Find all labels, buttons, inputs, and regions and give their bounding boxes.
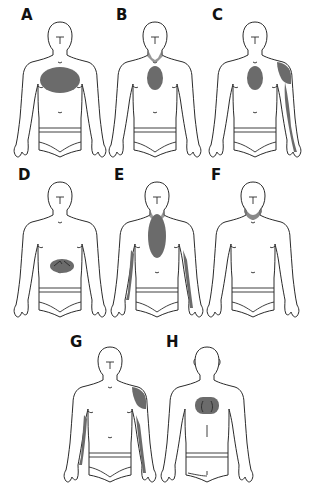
- figure-panel-d: D: [10, 160, 110, 320]
- panel-label: B: [116, 6, 127, 24]
- body-figure-front: [203, 160, 303, 325]
- pain-region-epigastric: [50, 259, 74, 273]
- figure-panel-g: G: [60, 325, 160, 485]
- pain-region-mid-chest: [247, 66, 263, 90]
- pain-region-sternum: [148, 214, 166, 258]
- body-figure-front: [105, 0, 205, 165]
- body-figure-front: [205, 0, 305, 165]
- figure-panel-c: C: [205, 0, 305, 160]
- panel-label: H: [166, 333, 179, 351]
- panel-label: G: [70, 333, 82, 351]
- figure-panel-b: B: [105, 0, 205, 160]
- body-figure-front: [10, 0, 110, 165]
- figure-panel-a: A: [10, 0, 110, 160]
- pain-region-interscapular: [195, 397, 219, 414]
- body-figure-front: [107, 160, 207, 325]
- panel-label: D: [18, 166, 30, 184]
- figure-panel-f: F: [203, 160, 303, 320]
- figure-panel-h: H: [157, 325, 257, 485]
- body-figure-front: [10, 160, 110, 325]
- panel-label: E: [114, 166, 124, 184]
- pain-region-chest: [40, 67, 80, 93]
- panel-label: A: [21, 6, 33, 24]
- panel-label: F: [211, 166, 221, 184]
- panel-label: C: [212, 6, 223, 24]
- figure-panel-e: E: [107, 160, 207, 320]
- pain-region-mid-chest: [147, 66, 163, 90]
